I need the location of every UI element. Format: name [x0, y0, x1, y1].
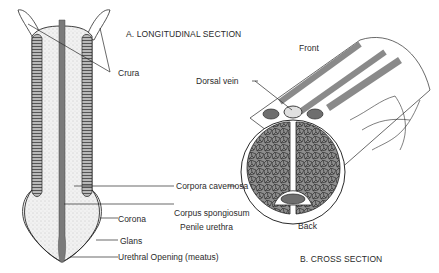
label-back: Back	[298, 221, 317, 231]
label-corpus-spongiosum: Corpus spongiosum	[174, 208, 250, 218]
section-b-title: B. CROSS SECTION	[300, 254, 382, 264]
cross-section	[241, 37, 430, 224]
label-glans: Glans	[120, 236, 142, 246]
label-crura: Crura	[118, 68, 139, 78]
label-penile-urethra: Penile urethra	[180, 222, 233, 232]
section-a-title: A. LONGITUDINAL SECTION	[126, 29, 241, 39]
longitudinal-section	[18, 10, 110, 262]
label-front: Front	[299, 43, 319, 53]
label-urethral-opening: Urethral Opening (meatus)	[118, 252, 219, 262]
label-corpora-cavernosa: Corpora cavernosa	[176, 181, 248, 191]
anatomy-illustration	[0, 0, 439, 273]
label-corona: Corona	[118, 214, 146, 224]
label-dorsal-vein: Dorsal vein	[196, 76, 239, 86]
